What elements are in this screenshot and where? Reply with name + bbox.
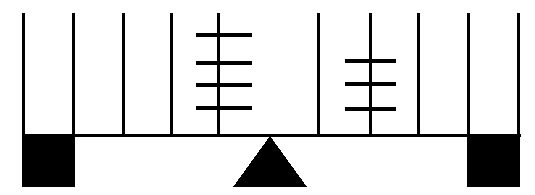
- figure-canvas: [0, 0, 535, 195]
- balance-beam-figure: [0, 0, 535, 195]
- left-weight-block: [22, 135, 75, 187]
- right-weight-block: [467, 135, 520, 187]
